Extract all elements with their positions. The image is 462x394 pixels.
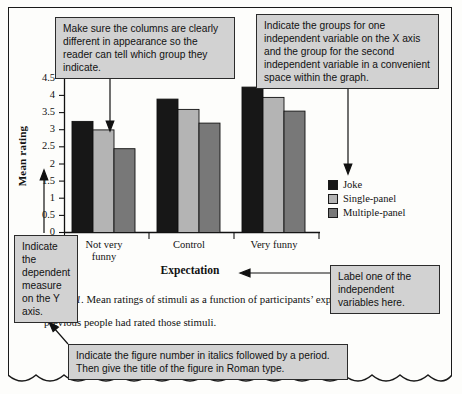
legend-label-joke: Joke [343,179,362,190]
xtick-label-control: Control [159,239,219,251]
xtick-label-very-funny: Very funny [244,239,304,251]
annotation-groups: Indicate the groups for one independent … [256,14,439,89]
ytick-label-2: 2 [31,158,55,169]
ytick-label-4-5: 4.5 [31,72,55,83]
legend-item-multiple-panel: Multiple-panel [328,206,405,219]
ytick-label-3: 3 [31,123,55,134]
ytick-label-1-5: 1.5 [31,175,55,186]
chart-legend: Joke Single-panel Multiple-panel [328,178,405,220]
figure-page: 0 0.5 1 1.5 2 2.5 3 3.5 4 4.5 Mean ratin… [0,0,462,394]
annotation-columns: Make sure the columns are clearly differ… [55,17,235,79]
ytick-label-1: 1 [31,192,55,203]
legend-item-joke: Joke [328,178,405,191]
y-axis-title: Mean rating [16,116,28,196]
legend-item-single-panel: Single-panel [328,192,405,205]
x-axis-title: Expectation [130,264,250,276]
ytick-label-0-5: 0.5 [31,209,55,220]
caption-second-line: previous people had rated those stimuli. [44,317,434,328]
legend-label-single-panel: Single-panel [343,193,396,204]
ytick-label-3-5: 3.5 [31,106,55,117]
legend-swatch-joke [328,180,338,190]
legend-label-multiple-panel: Multiple-panel [343,207,405,218]
legend-swatch-single-panel [328,194,338,204]
annotation-dependent-measure: Indicate the dependent measure on the Y … [14,235,78,323]
ytick-label-2-5: 2.5 [31,140,55,151]
xtick-label-not-very-funny: Not very funny [74,239,134,263]
ytick-label-4: 4 [31,89,55,100]
legend-swatch-multiple-panel [328,208,338,218]
annotation-independent-variable: Label one of the independent variables h… [330,265,440,314]
annotation-figure-number: Indicate the figure number in italics fo… [68,344,348,380]
